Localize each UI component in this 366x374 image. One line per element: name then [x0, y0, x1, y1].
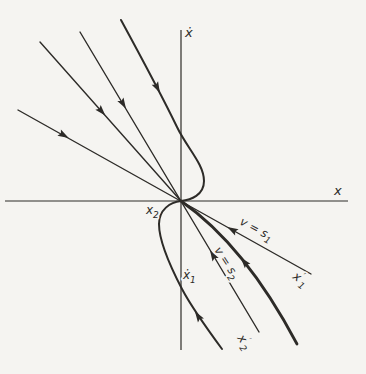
phase-plane-svg: ẋxx2ẋ1v = s1v = s2x′1x′2	[0, 0, 366, 374]
scanned-figure-page: ẋxx2ẋ1v = s1v = s2x′1x′2	[0, 0, 366, 374]
figure-background	[0, 0, 366, 374]
phase-plane-diagram: ẋxx2ẋ1v = s1v = s2x′1x′2	[0, 0, 366, 374]
x-axis-label: x	[333, 183, 342, 198]
xdot-axis-label: ẋ	[184, 25, 193, 40]
